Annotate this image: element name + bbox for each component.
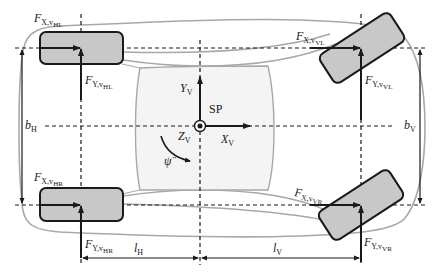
label-fy-hr: FY,vHR bbox=[85, 238, 113, 255]
label-subsub: VR bbox=[382, 245, 392, 253]
label-sub: V bbox=[187, 88, 193, 97]
label-main: ψ̈ bbox=[164, 154, 171, 168]
label-sub: H bbox=[31, 125, 37, 134]
label-sub: Y,v bbox=[92, 244, 103, 253]
label-fy-vr: FY,vVR bbox=[364, 236, 392, 253]
label-lv: lV bbox=[273, 242, 282, 257]
label-subsub: HR bbox=[53, 180, 63, 188]
label-sub: X,v bbox=[303, 36, 315, 45]
label-sub: X,v bbox=[41, 18, 53, 27]
label-subsub: HL bbox=[53, 21, 62, 29]
label-bh: bH bbox=[25, 119, 37, 134]
label-fx-hr: FX,vHR bbox=[34, 171, 63, 188]
label-sub: X,v bbox=[41, 177, 53, 186]
label-yaw-acceleration: ψ̈ bbox=[164, 155, 171, 167]
label-main: Z bbox=[178, 129, 185, 143]
label-sub: Y,v bbox=[92, 80, 103, 89]
label-main: Y bbox=[180, 81, 187, 95]
label-yv: YV bbox=[180, 82, 192, 97]
label-subsub: HR bbox=[103, 247, 113, 255]
label-bv: bV bbox=[404, 119, 416, 134]
label-fx-vl: FX,vVL bbox=[296, 30, 324, 47]
label-subsub: VL bbox=[383, 83, 392, 91]
label-sub: Y,v bbox=[371, 242, 382, 251]
label-sub: V bbox=[185, 136, 191, 145]
label-fy-vl: FY,vVL bbox=[365, 74, 392, 91]
label-fx-hl: FX,vHL bbox=[34, 12, 62, 29]
label-xv: XV bbox=[221, 133, 234, 148]
label-subsub: VR bbox=[312, 198, 323, 207]
label-sp: SP bbox=[209, 103, 222, 115]
label-lh: lH bbox=[134, 242, 143, 257]
label-sub: V bbox=[410, 125, 416, 134]
label-zv: ZV bbox=[178, 130, 190, 145]
label-sub: V bbox=[228, 139, 234, 148]
label-fy-hl: FY,vHL bbox=[85, 74, 112, 91]
label-sub: Y,v bbox=[372, 80, 383, 89]
label-subsub: HL bbox=[103, 83, 112, 91]
label-sub: H bbox=[137, 248, 143, 257]
label-sub: V bbox=[276, 248, 282, 257]
label-subsub: VL bbox=[315, 39, 324, 47]
vehicle-diagram bbox=[0, 0, 434, 273]
